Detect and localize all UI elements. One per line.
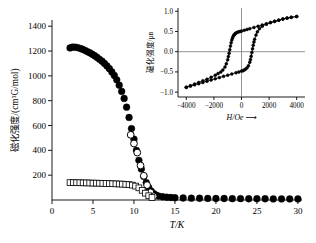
data-point bbox=[221, 68, 224, 71]
data-point bbox=[295, 15, 298, 18]
y-tick-label-inset-0: −1.0 bbox=[160, 89, 173, 97]
data-point bbox=[253, 38, 256, 41]
data-point bbox=[196, 195, 203, 202]
data-point bbox=[121, 95, 128, 102]
data-point bbox=[256, 30, 259, 33]
y-tick-label-main-6: 1400 bbox=[28, 21, 47, 31]
chart-inset: −4000−2000020004000−1.0−0.50.00.51.0H/Oe… bbox=[145, 8, 305, 123]
data-point bbox=[245, 195, 252, 202]
x-tick-label-main-1: 5 bbox=[91, 206, 96, 216]
data-point bbox=[172, 194, 179, 201]
y-tick-label-inset-1: −0.5 bbox=[160, 68, 173, 76]
data-point bbox=[223, 66, 226, 69]
data-point bbox=[262, 195, 269, 202]
x-axis-label-inset: H/Oe ⟶ bbox=[226, 113, 258, 122]
series-main-2 bbox=[67, 180, 155, 201]
data-point bbox=[185, 86, 188, 89]
data-point bbox=[226, 74, 229, 77]
data-point bbox=[204, 195, 211, 202]
data-point bbox=[225, 62, 228, 65]
x-tick-label-main-2: 10 bbox=[129, 206, 139, 216]
data-point bbox=[254, 195, 261, 202]
data-point bbox=[234, 71, 237, 74]
data-point bbox=[237, 195, 244, 202]
x-tick-label-inset-4: 4000 bbox=[290, 102, 305, 110]
data-point bbox=[213, 195, 220, 202]
figure-root: 051015202530200400600800100012001400T/K磁… bbox=[0, 0, 316, 243]
y-axis-label-inset: 磁化强度/μʙ bbox=[145, 31, 155, 73]
data-point bbox=[258, 27, 261, 30]
data-point bbox=[250, 51, 253, 54]
x-tick-label-inset-3: 2000 bbox=[262, 102, 277, 110]
data-point bbox=[277, 19, 280, 22]
data-point bbox=[210, 76, 213, 79]
data-point bbox=[134, 149, 141, 156]
data-point bbox=[290, 16, 293, 19]
data-point bbox=[265, 23, 268, 26]
data-point bbox=[180, 195, 187, 202]
data-point bbox=[252, 44, 255, 47]
data-point bbox=[210, 79, 213, 82]
data-point bbox=[273, 20, 276, 23]
data-point bbox=[248, 61, 251, 64]
data-point bbox=[270, 195, 277, 202]
data-point bbox=[226, 58, 229, 61]
data-point bbox=[252, 26, 255, 29]
y-tick-label-inset-3: 0.5 bbox=[164, 28, 173, 36]
y-tick-label-inset-2: 0.0 bbox=[164, 48, 173, 56]
data-point bbox=[246, 28, 249, 31]
data-point bbox=[248, 27, 251, 30]
data-point bbox=[149, 195, 155, 201]
data-point bbox=[214, 74, 217, 77]
data-point bbox=[188, 195, 195, 202]
data-point bbox=[240, 70, 243, 73]
x-tick-label-main-4: 20 bbox=[211, 206, 221, 216]
data-point bbox=[123, 104, 130, 111]
data-point bbox=[278, 195, 285, 202]
data-point bbox=[222, 75, 225, 78]
x-tick-label-inset-2: 0 bbox=[240, 102, 244, 110]
data-point bbox=[230, 72, 233, 75]
y-tick-label-inset-4: 1.0 bbox=[164, 8, 173, 16]
data-point bbox=[249, 58, 252, 61]
data-point bbox=[214, 77, 217, 80]
data-point bbox=[251, 47, 254, 50]
data-point bbox=[281, 17, 284, 20]
data-point bbox=[229, 45, 232, 48]
data-point bbox=[128, 125, 135, 132]
data-point bbox=[295, 195, 302, 202]
data-point bbox=[227, 55, 230, 58]
data-point bbox=[118, 88, 125, 95]
data-point bbox=[228, 48, 231, 51]
data-point bbox=[261, 25, 264, 28]
series-main-0 bbox=[67, 44, 302, 203]
data-point bbox=[193, 83, 196, 86]
data-point bbox=[240, 30, 243, 33]
x-tick-label-main-0: 0 bbox=[50, 206, 55, 216]
data-point bbox=[201, 81, 204, 84]
x-axis-label-main: T/K bbox=[170, 219, 185, 230]
data-point bbox=[228, 52, 231, 55]
y-tick-label-main-2: 600 bbox=[33, 121, 47, 131]
data-point bbox=[140, 172, 147, 179]
data-point bbox=[252, 40, 255, 43]
data-point bbox=[137, 162, 144, 169]
y-tick-label-main-1: 400 bbox=[33, 145, 47, 155]
data-point bbox=[189, 85, 192, 88]
data-point bbox=[230, 41, 233, 44]
data-point bbox=[221, 195, 228, 202]
data-point bbox=[243, 29, 246, 32]
y-axis-label-main: 磁化强度/(cm³G/mol) bbox=[9, 68, 21, 151]
data-point bbox=[250, 55, 253, 58]
data-point bbox=[254, 34, 257, 37]
x-tick-label-inset-1: −2000 bbox=[205, 102, 224, 110]
data-point bbox=[197, 82, 200, 85]
chart-canvas: 051015202530200400600800100012001400T/K磁… bbox=[0, 0, 316, 243]
x-tick-label-main-5: 25 bbox=[252, 206, 262, 216]
data-point bbox=[286, 17, 289, 20]
data-point bbox=[218, 76, 221, 79]
y-tick-label-main-4: 1000 bbox=[28, 71, 47, 81]
data-point bbox=[126, 114, 133, 121]
data-point bbox=[286, 195, 293, 202]
data-point bbox=[131, 140, 138, 147]
